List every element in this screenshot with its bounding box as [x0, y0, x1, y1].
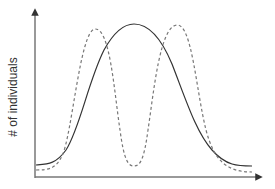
y-axis-label: # of individuals	[6, 57, 20, 136]
dashed-curve	[36, 25, 252, 172]
solid-curve	[36, 24, 252, 166]
distribution-chart	[0, 0, 275, 189]
